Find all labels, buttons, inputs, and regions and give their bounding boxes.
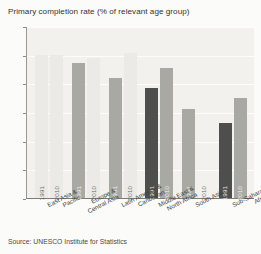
- x-axis-label-group: Sub-SaharanAfrica: [214, 201, 251, 235]
- x-axis-label-group: Europe &Central Asia: [67, 201, 104, 235]
- y-axis-tick-mark: [23, 56, 26, 57]
- bar-group: 19912010: [141, 27, 178, 198]
- bar-group: 19912010: [31, 27, 68, 198]
- x-axis-labels: East Asia &PacificEurope &Central AsiaLa…: [26, 201, 254, 235]
- y-axis-tick-mark: [23, 27, 26, 28]
- bar[interactable]: 1991: [145, 88, 158, 198]
- bar[interactable]: 1991: [72, 63, 85, 198]
- x-axis-label-group: East Asia &Pacific: [30, 201, 67, 235]
- bar[interactable]: 1991: [109, 78, 122, 198]
- chart-title: Primary completion rate (% of relevant a…: [8, 7, 253, 16]
- plot-area: 1991201019912010199120101991201019912010…: [26, 27, 254, 199]
- y-axis-tick-mark: [23, 84, 26, 85]
- bar[interactable]: 2010: [197, 164, 210, 198]
- bar[interactable]: 2010: [87, 58, 100, 198]
- plot-wrapper: 1991201019912010199120101991201019912010…: [26, 27, 254, 199]
- source-note: Source: UNESCO Institute for Statistics: [8, 238, 127, 245]
- bar[interactable]: 1991: [219, 123, 232, 198]
- bar[interactable]: 1991: [35, 55, 48, 198]
- bar-series: 1991201019912010199120101991201019912010…: [27, 27, 254, 198]
- bar-group: 19912010: [214, 27, 251, 198]
- bar[interactable]: 2010: [124, 53, 137, 198]
- y-axis-tick-mark: [23, 142, 26, 143]
- y-axis-tick-mark: [23, 199, 26, 200]
- y-axis-tick-mark: [23, 170, 26, 171]
- bar[interactable]: 2010: [50, 55, 63, 198]
- y-axis-tick-mark: [23, 113, 26, 114]
- bar-group: 19912010: [104, 27, 141, 198]
- bar-group: 19912010: [68, 27, 105, 198]
- x-axis-label-group: Latin America &Caribbean: [104, 201, 141, 235]
- bar[interactable]: 2010: [234, 98, 247, 198]
- bar[interactable]: 2010: [160, 68, 173, 198]
- bar-group: 19912010: [178, 27, 215, 198]
- x-axis-label-group: Middle East &North Africa: [140, 201, 177, 235]
- x-axis-label-group: South Asia: [177, 201, 214, 235]
- chart-card: Primary completion rate (% of relevant a…: [0, 0, 261, 254]
- bar-year-label: 1991: [39, 186, 45, 201]
